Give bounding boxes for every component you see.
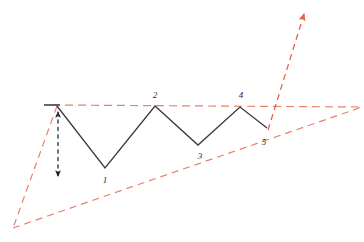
pivot-label-1: 1 [103,175,108,185]
pivot-label-3: 3 [197,151,203,161]
pivot-label-5: 5 [262,137,267,147]
chart-canvas: 1 2 3 4 5 [0,0,364,242]
chart-background [0,0,364,242]
pivot-label-4: 4 [239,90,244,100]
technical-pattern-diagram: 1 2 3 4 5 [0,0,364,242]
pivot-label-2: 2 [153,90,158,100]
